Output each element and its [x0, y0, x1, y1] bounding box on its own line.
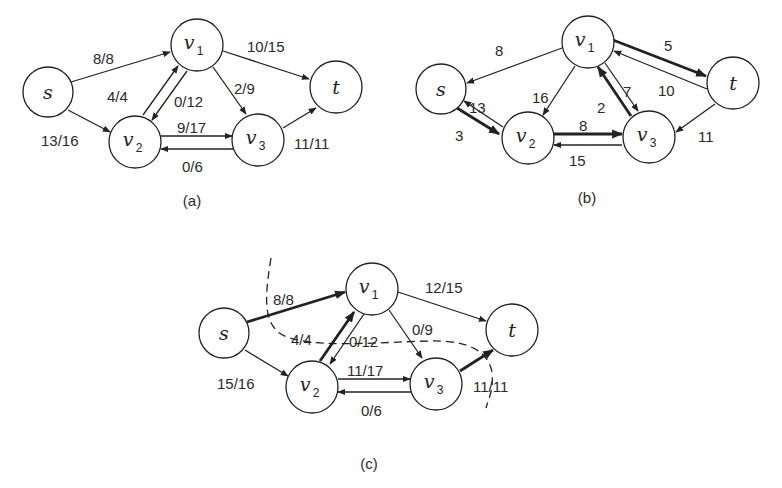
svg-text:v: v	[575, 28, 586, 50]
edge-label: 4/4	[291, 331, 312, 348]
node-s: s	[199, 308, 249, 358]
edge-label: 8	[495, 42, 503, 59]
svg-text:3: 3	[437, 383, 444, 397]
panel-c: 8/8 15/16 4/4 0/12 0/9 12/15 11/17 0/6 1…	[199, 258, 538, 472]
edge-label: 2	[597, 99, 605, 116]
edge-v1-t	[613, 40, 706, 76]
edge-s-v2	[68, 110, 110, 132]
edge-s-v1	[247, 292, 345, 322]
svg-text:1: 1	[588, 41, 595, 55]
svg-text:v: v	[424, 370, 435, 392]
caption-a: (a)	[183, 192, 201, 209]
edge-v1-s	[467, 48, 562, 83]
edge-label: 11/11	[294, 135, 329, 152]
flow-network-figure: 8/8 13/16 4/4 0/12 2/9 10/15 9/17 0/6 11…	[0, 0, 782, 488]
node-v2: v 2	[286, 361, 338, 413]
node-v1: v 1	[346, 263, 398, 315]
svg-text:2: 2	[529, 137, 536, 151]
svg-text:3: 3	[259, 139, 266, 153]
svg-text:s: s	[219, 322, 229, 344]
node-v2: v 2	[502, 112, 554, 164]
edge-label: 10/15	[247, 38, 285, 55]
edge-label: 11	[698, 128, 714, 145]
edge-label: 12/15	[425, 279, 463, 296]
edge-label: 3	[455, 127, 463, 144]
svg-text:2: 2	[136, 141, 143, 155]
edge-label: 8	[579, 117, 587, 134]
edge-label: 13	[469, 99, 486, 116]
edge-v3-t	[283, 108, 316, 128]
svg-text:v: v	[516, 124, 527, 146]
edge-label: 11/17	[347, 362, 383, 379]
svg-text:s: s	[43, 81, 53, 103]
node-t: t	[486, 304, 538, 356]
edge-label: 0/12	[174, 93, 203, 110]
svg-text:3: 3	[650, 136, 657, 150]
edge-label: 5	[664, 37, 672, 54]
node-t: t	[310, 61, 362, 113]
edge-v3-t	[460, 350, 493, 371]
svg-text:v: v	[637, 123, 648, 145]
svg-text:t: t	[332, 76, 340, 98]
edge-label: 15/16	[217, 375, 255, 392]
edge-label: 0/6	[182, 158, 203, 175]
edge-label: 8/8	[93, 50, 114, 67]
panel-a: 8/8 13/16 4/4 0/12 2/9 10/15 9/17 0/6 11…	[23, 19, 362, 209]
svg-text:s: s	[436, 78, 446, 100]
edge-label: 11/11	[473, 378, 508, 395]
edge-label: 0/9	[412, 321, 433, 338]
node-v3: v 3	[623, 111, 675, 163]
edge-label: 0/6	[361, 402, 382, 419]
edge-label: 0/12	[349, 333, 378, 350]
edge-label: 8/8	[273, 291, 294, 308]
svg-text:t: t	[729, 72, 737, 94]
node-v3: v 3	[410, 358, 462, 410]
svg-text:t: t	[508, 319, 516, 341]
svg-text:v: v	[184, 31, 195, 53]
node-s: s	[416, 64, 466, 114]
node-v1: v 1	[171, 19, 223, 71]
edge-v1-t	[398, 292, 486, 321]
svg-text:1: 1	[197, 44, 204, 58]
edge-label: 4/4	[107, 88, 128, 105]
node-v1: v 1	[562, 16, 614, 68]
svg-text:v: v	[300, 373, 311, 395]
edge-label: 13/16	[41, 132, 79, 149]
svg-text:v: v	[246, 126, 257, 148]
edge-label: 15	[569, 152, 586, 169]
panel-b: 8 13 3 16 5 10 7 2 8 15 11 s v 1 v 2 v 3	[416, 16, 759, 206]
edge-label: 16	[532, 89, 549, 106]
edge-label: 7	[623, 83, 631, 100]
edge-label: 2/9	[234, 80, 255, 97]
caption-c: (c)	[360, 455, 378, 472]
node-s: s	[23, 67, 73, 117]
svg-text:1: 1	[372, 288, 379, 302]
node-v2: v 2	[109, 116, 161, 168]
svg-text:2: 2	[313, 386, 320, 400]
caption-b: (b)	[578, 189, 596, 206]
edge-label: 9/17	[177, 119, 206, 136]
node-v3: v 3	[232, 114, 284, 166]
edge-label: 10	[658, 82, 675, 99]
edge-s-v2	[245, 350, 288, 376]
node-t: t	[707, 57, 759, 109]
svg-text:v: v	[123, 128, 134, 150]
edge-v1-t	[223, 51, 309, 79]
svg-text:v: v	[359, 275, 370, 297]
edge-s-v1	[71, 52, 170, 82]
